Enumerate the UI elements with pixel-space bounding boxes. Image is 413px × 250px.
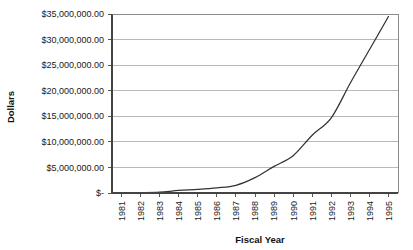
- x-tick-label: 1994: [365, 201, 375, 221]
- x-tick-label: 1995: [384, 201, 394, 221]
- y-tick-label: $-: [96, 188, 104, 198]
- x-tick-label: 1982: [136, 201, 146, 221]
- x-tick-label: 1991: [308, 201, 318, 221]
- line-chart: $-$5,000,000.00$10,000,000.00$15,000,000…: [0, 0, 413, 250]
- y-tick-label: $25,000,000.00: [41, 60, 104, 70]
- x-tick-label: 1981: [117, 201, 127, 221]
- x-tick-label: 1985: [193, 201, 203, 221]
- x-tick-label: 1993: [346, 201, 356, 221]
- chart-container: $-$5,000,000.00$10,000,000.00$15,000,000…: [0, 0, 413, 250]
- y-axis-title: Dollars: [5, 91, 16, 123]
- y-tick-label: $35,000,000.00: [41, 9, 104, 19]
- y-tick-label: $20,000,000.00: [41, 86, 104, 96]
- x-axis-title: Fiscal Year: [235, 234, 285, 245]
- x-tick-label: 1990: [289, 201, 299, 221]
- x-tick-label: 1992: [327, 201, 337, 221]
- x-tick-label: 1988: [250, 201, 260, 221]
- x-tick-label: 1989: [269, 201, 279, 221]
- y-tick-label: $30,000,000.00: [41, 35, 104, 45]
- x-tick-label: 1987: [231, 201, 241, 221]
- x-tick-label: 1984: [174, 201, 184, 221]
- y-tick-label: $15,000,000.00: [41, 111, 104, 121]
- y-tick-label: $5,000,000.00: [46, 163, 104, 173]
- y-tick-label: $10,000,000.00: [41, 137, 104, 147]
- x-tick-labels-group: 1981198219831984198519861987198819891990…: [117, 201, 394, 221]
- x-tick-label: 1983: [155, 201, 165, 221]
- x-tick-label: 1986: [212, 201, 222, 221]
